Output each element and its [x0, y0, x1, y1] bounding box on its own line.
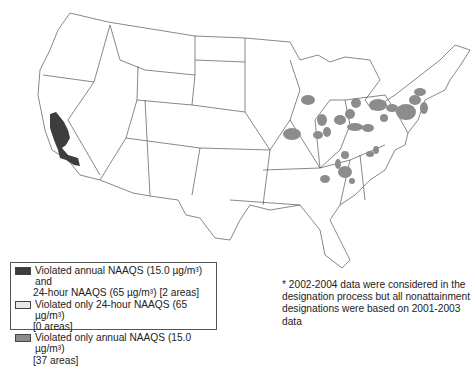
- swatch-medium-icon: [15, 334, 31, 342]
- footnote: * 2002-2004 data were considered in the …: [282, 279, 471, 328]
- map-legend: Violated annual NAAQS (15.0 µg/m³) and 2…: [10, 262, 217, 330]
- legend-item-24hour: Violated only 24-hour NAAQS (65 µg/m³): [15, 299, 216, 321]
- legend-label: Violated only annual NAAQS (15.0 µg/m³): [35, 332, 216, 354]
- legend-label: Violated only 24-hour NAAQS (65 µg/m³): [35, 299, 216, 321]
- legend-item-annual: Violated only annual NAAQS (15.0 µg/m³): [15, 332, 216, 354]
- legend-label-cont: 24-hour NAAQS (65 µg/m³) [2 areas]: [15, 287, 216, 298]
- legend-label-cont: [0 areas]: [15, 321, 216, 332]
- swatch-light-icon: [15, 301, 31, 309]
- state-boundaries: [38, 13, 470, 268]
- legend-label-cont: [37 areas]: [15, 355, 216, 366]
- swatch-dark-icon: [15, 267, 31, 275]
- legend-item-both: Violated annual NAAQS (15.0 µg/m³) and: [15, 265, 216, 287]
- legend-label: Violated annual NAAQS (15.0 µg/m³) and: [35, 265, 216, 287]
